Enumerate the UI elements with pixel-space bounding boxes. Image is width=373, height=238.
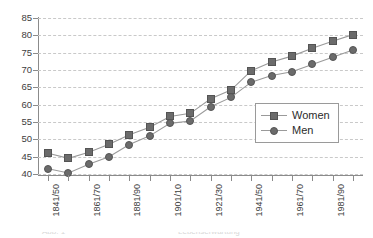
data-point-men-1971/80 — [308, 60, 316, 68]
gridline-y-40 — [38, 174, 363, 175]
legend-swatch-men-icon — [261, 125, 287, 136]
data-point-women-1991/2000 — [349, 31, 357, 39]
plot-area — [38, 18, 363, 174]
data-point-men-1871/80 — [105, 153, 113, 161]
y-tick-label-45: 45 — [8, 152, 32, 162]
data-point-men-1931/40 — [227, 93, 235, 101]
x-tick-1841/50 — [48, 175, 49, 181]
legend-item-men[interactable]: Men — [261, 123, 330, 138]
data-point-men-1911/20 — [186, 117, 194, 125]
x-tick-1961/70 — [292, 175, 293, 181]
x-tick-1951/60 — [272, 175, 273, 181]
data-point-men-1841/50 — [44, 165, 52, 173]
x-tick-1931/40 — [231, 175, 232, 181]
x-tick-1851/60 — [68, 175, 69, 181]
x-tick-1891/1900 — [150, 175, 151, 181]
x-tick-1871/80 — [109, 175, 110, 181]
data-point-women-1921/30 — [207, 95, 215, 103]
data-point-women-1951/60 — [268, 58, 276, 66]
x-tick-1881/90 — [129, 175, 130, 181]
caption-fragment-right: Lebenserwartung — [178, 232, 240, 236]
data-point-women-1851/60 — [64, 154, 72, 162]
x-tick-1861/70 — [89, 175, 90, 181]
data-point-men-1901/10 — [166, 119, 174, 127]
x-tick-1901/10 — [170, 175, 171, 181]
y-tick-label-80: 80 — [8, 31, 32, 41]
data-point-women-1871/80 — [105, 140, 113, 148]
data-point-men-1961/70 — [288, 68, 296, 76]
data-point-women-1941/50 — [247, 67, 255, 75]
y-tick-label-55: 55 — [8, 117, 32, 127]
data-point-men-1951/60 — [268, 72, 276, 80]
legend-label-women: Women — [292, 110, 330, 121]
x-tick-1971/80 — [312, 175, 313, 181]
y-tick-label-75: 75 — [8, 48, 32, 58]
legend-label-men: Men — [292, 125, 313, 136]
y-tick-label-65: 65 — [8, 83, 32, 93]
x-tick-label-1961/70: 1961/70 — [296, 184, 305, 217]
data-point-men-1891/1900 — [146, 132, 154, 140]
legend-swatch-women-icon — [261, 110, 287, 121]
legend-item-women[interactable]: Women — [261, 108, 330, 123]
data-point-women-1881/90 — [125, 131, 133, 139]
caption-fragment-left: Abb. 1 — [42, 232, 65, 236]
x-tick-1911/20 — [190, 175, 191, 181]
x-tick-1921/30 — [211, 175, 212, 181]
data-point-women-1961/70 — [288, 52, 296, 60]
y-tick-label-50: 50 — [8, 135, 32, 145]
data-point-men-1991/2000 — [349, 46, 357, 54]
x-tick-1941/50 — [251, 175, 252, 181]
x-tick-label-1841/50: 1841/50 — [52, 184, 61, 217]
x-tick-1981/90 — [333, 175, 334, 181]
y-tick-label-70: 70 — [8, 65, 32, 75]
y-tick-label-60: 60 — [8, 100, 32, 110]
x-tick-label-1881/90: 1881/90 — [133, 184, 142, 217]
x-tick-label-1921/30: 1921/30 — [215, 184, 224, 217]
x-tick-label-1861/70: 1861/70 — [93, 184, 102, 217]
data-point-men-1941/50 — [247, 78, 255, 86]
data-point-women-1981/90 — [329, 37, 337, 45]
data-point-women-1861/70 — [85, 148, 93, 156]
data-point-women-1891/1900 — [146, 123, 154, 131]
x-tick-label-1941/50: 1941/50 — [255, 184, 264, 217]
data-point-women-1971/80 — [308, 44, 316, 52]
data-point-men-1981/90 — [329, 53, 337, 61]
y-tick-label-85: 85 — [8, 13, 32, 23]
x-tick-label-1901/10: 1901/10 — [174, 184, 183, 217]
caption-strip: Abb. 1 Lebenserwartung — [0, 232, 373, 238]
x-tick-1991/2000 — [353, 175, 354, 181]
x-tick-label-1981/90: 1981/90 — [337, 184, 346, 217]
chart-container: 40455055606570758085 1841/501861/701881/… — [0, 0, 373, 238]
y-tick-label-40: 40 — [8, 169, 32, 179]
data-point-men-1881/90 — [125, 141, 133, 149]
data-point-men-1921/30 — [207, 103, 215, 111]
data-point-women-1841/50 — [44, 149, 52, 157]
legend[interactable]: Women Men — [255, 103, 339, 143]
x-axis-line — [38, 175, 363, 176]
data-point-men-1861/70 — [85, 160, 93, 168]
